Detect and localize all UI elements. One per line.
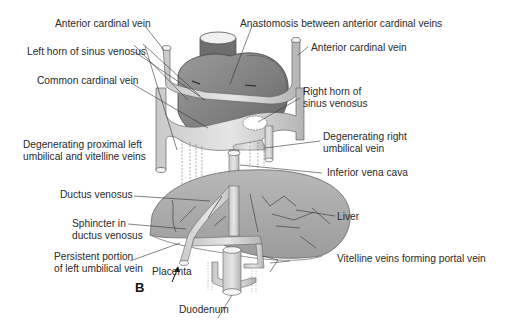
label-anastomosis: Anastomosis between anterior cardinal ve… [240, 18, 442, 31]
label-sphincter-1: Sphincter in [72, 218, 126, 231]
label-duodenum: Duodenum [179, 304, 229, 317]
label-vitelline-portal: Vitelline veins forming portal vein [337, 253, 486, 266]
label-persistent-2: of left umbilical vein [54, 263, 143, 276]
duodenum [223, 247, 241, 296]
label-ductus-venosus: Ductus venosus [60, 189, 132, 202]
label-right-horn-2: sinus venosus [303, 98, 368, 111]
label-sphincter-2: ductus venosus [72, 230, 143, 243]
label-anterior-cardinal-vein-left: Anterior cardinal vein [55, 18, 151, 31]
label-liver: Liver [337, 211, 359, 224]
label-right-horn-1: Right horn of [303, 86, 361, 99]
label-degen-right-2: umbilical vein [323, 143, 384, 156]
label-persistent-1: Persistent portion [54, 251, 133, 264]
label-degen-left-1: Degenerating proximal left [23, 139, 142, 152]
degenerating-right-umbilical-vein [265, 126, 273, 162]
panel-letter: B [135, 280, 144, 295]
label-inferior-vena-cava: Inferior vena cava [327, 167, 408, 180]
label-anterior-cardinal-vein-right: Anterior cardinal vein [311, 42, 407, 55]
label-common-cardinal-vein: Common cardinal vein [37, 75, 138, 88]
label-placenta: Placenta [152, 266, 192, 279]
label-left-horn: Left horn of sinus venosus [27, 46, 146, 59]
label-degen-left-2: umbilical and vitelline veins [23, 151, 146, 164]
label-degen-right-1: Degenerating right [323, 131, 407, 144]
